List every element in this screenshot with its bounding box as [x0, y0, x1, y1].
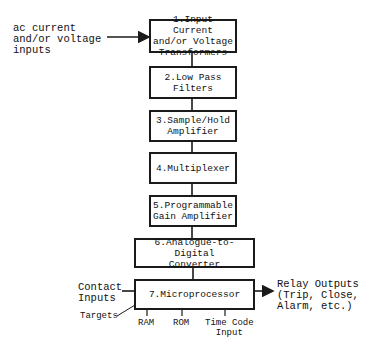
- ram-label: RAM: [138, 318, 154, 328]
- block-programmable-gain-amplifier: 5.Programmable Gain Amplifier: [149, 195, 237, 227]
- targets-label: Targets: [80, 311, 118, 321]
- contact-inputs-label: Contact Inputs: [78, 282, 122, 304]
- block-multiplexer: 4.Multiplexer: [149, 152, 237, 184]
- rom-label: ROM: [173, 318, 189, 328]
- ac-inputs-label: ac current and/or voltage inputs: [13, 23, 101, 56]
- block-low-pass-filters: 2.Low Pass Filters: [149, 66, 237, 99]
- block-sample-hold-amplifier: 3.Sample/Hold Amplifier: [149, 110, 237, 142]
- block-adc: 6.Analogue-to-Digital Converter: [134, 238, 255, 268]
- time-code-input-label: Time Code Input: [205, 318, 254, 338]
- block-input-transformers: 1.Input Current and/or Voltage Transform…: [149, 19, 237, 53]
- block-microprocessor: 7.Microprocessor: [134, 279, 255, 310]
- relay-outputs-label: Relay Outputs (Trip, Close, Alarm, etc.): [277, 279, 359, 312]
